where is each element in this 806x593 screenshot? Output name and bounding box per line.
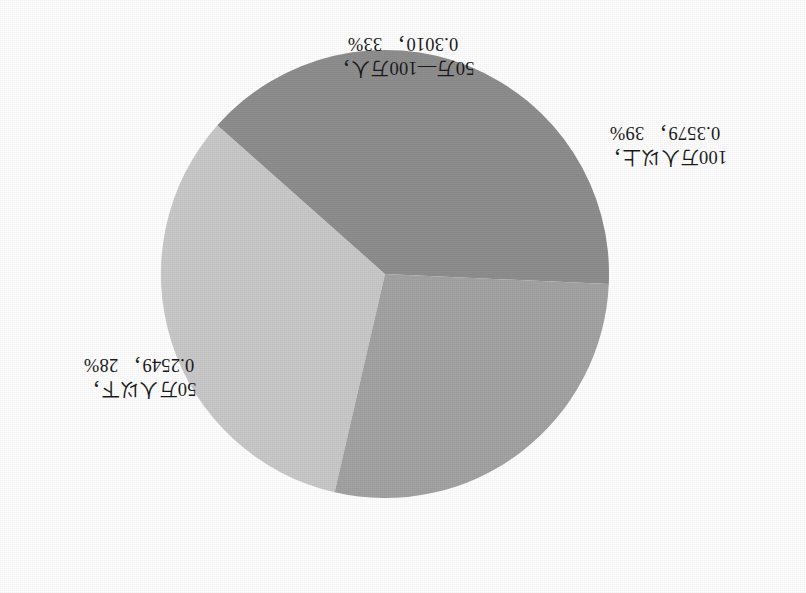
pie-label-slice-2: 50万人以下， 0.2549， 28% <box>14 353 264 401</box>
pie-label-slice-1-value: 0.3579， 39% <box>540 121 790 145</box>
chart-canvas: 50万—100万人， 0.3010， 33% 100万人以上， 0.3579， … <box>0 0 806 593</box>
pie-label-slice-0: 50万—100万人， 0.3010， 33% <box>272 32 534 80</box>
pie-chart-graphic <box>0 0 806 593</box>
pie-label-slice-2-value: 0.2549， 28% <box>14 353 264 377</box>
pie-label-slice-0-value: 0.3010， 33% <box>272 32 534 56</box>
pie-label-slice-0-name: 50万—100万人， <box>272 56 534 80</box>
pie-label-slice-1-name: 100万人以上， <box>540 145 790 169</box>
pie-label-slice-2-name: 50万人以下， <box>14 377 264 401</box>
pie-label-slice-1: 100万人以上， 0.3579， 39% <box>540 121 790 169</box>
pie-chart-figure: 50万—100万人， 0.3010， 33% 100万人以上， 0.3579， … <box>0 0 806 593</box>
